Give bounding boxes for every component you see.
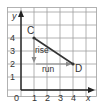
rise-arrowhead-icon — [32, 57, 37, 63]
x-tick-3: 3 — [58, 93, 63, 103]
x-tick-2: 2 — [45, 93, 50, 103]
x-tick-1: 1 — [32, 93, 37, 103]
run-label: run — [42, 64, 55, 74]
y-tick-1: 1 — [10, 72, 15, 82]
origin-label: 0 — [14, 93, 19, 103]
y-tick-2: 2 — [10, 59, 15, 69]
y-axis-label: y — [11, 11, 17, 21]
y-tick-3: 3 — [10, 46, 15, 56]
point-c — [32, 36, 35, 39]
x-axis-label: x — [85, 93, 91, 103]
y-axis-arrow-icon — [18, 10, 24, 17]
point-c-label: C — [27, 25, 34, 36]
rise-label: rise — [35, 45, 49, 55]
slope-diagram: y x 0 4 3 2 1 1 2 3 4 C D rise run — [0, 0, 104, 105]
x-tick-4: 4 — [71, 93, 76, 103]
y-tick-4: 4 — [10, 33, 15, 43]
point-d-label: D — [75, 63, 82, 74]
